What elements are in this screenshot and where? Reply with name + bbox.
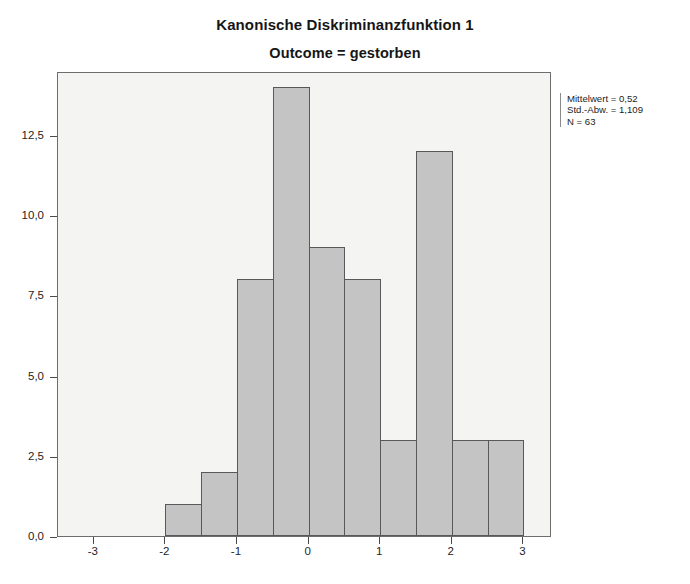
y-axis-tick <box>50 136 57 137</box>
x-axis-tick <box>522 537 523 544</box>
x-axis-tick <box>164 537 165 544</box>
statistics-annotation: Mittelwert = 0,52 Std.-Abw. = 1,109 N = … <box>560 93 643 127</box>
y-axis-tick-label: 5,0 <box>0 371 44 383</box>
histogram-bar <box>309 247 346 536</box>
histogram-bar <box>416 151 453 536</box>
y-axis-tick-label: 0,0 <box>0 531 44 543</box>
x-axis-tick-label: -1 <box>216 546 256 558</box>
histogram-figure: Kanonische Diskriminanzfunktion 1 Outcom… <box>0 0 690 584</box>
x-axis-tick <box>451 537 452 544</box>
stat-std-dev: Std.-Abw. = 1,109 <box>567 104 643 115</box>
x-axis-tick <box>379 537 380 544</box>
y-axis-tick <box>50 296 57 297</box>
histogram-bar <box>344 279 381 536</box>
y-axis-tick-label: 2,5 <box>0 451 44 463</box>
x-axis-tick-label: -2 <box>144 546 184 558</box>
histogram-bar <box>201 472 238 536</box>
y-axis-tick <box>50 216 57 217</box>
histogram-bar <box>273 87 310 536</box>
x-axis-tick-label: 2 <box>431 546 471 558</box>
x-axis-tick-label: -3 <box>73 546 113 558</box>
histogram-bar <box>237 279 274 536</box>
x-axis-tick-label: 0 <box>288 546 328 558</box>
histogram-bar <box>488 440 525 536</box>
y-axis-tick <box>50 457 57 458</box>
histogram-bar <box>452 440 489 536</box>
stat-n: N = 63 <box>567 116 643 127</box>
bars-layer <box>58 73 550 536</box>
histogram-bar <box>380 440 417 536</box>
y-axis-tick <box>50 377 57 378</box>
x-axis-tick-label: 1 <box>359 546 399 558</box>
histogram-bar <box>165 504 202 536</box>
y-axis-tick <box>50 537 57 538</box>
x-axis-tick <box>236 537 237 544</box>
plot-area <box>57 72 551 537</box>
chart-subtitle: Outcome = gestorben <box>0 45 690 61</box>
y-axis-tick-label: 10,0 <box>0 210 44 222</box>
y-axis-tick-label: 7,5 <box>0 290 44 302</box>
stat-mean: Mittelwert = 0,52 <box>567 93 643 104</box>
page-title: Kanonische Diskriminanzfunktion 1 <box>0 16 690 33</box>
x-axis-tick <box>308 537 309 544</box>
x-axis-tick <box>93 537 94 544</box>
y-axis-tick-label: 12,5 <box>0 130 44 142</box>
x-axis-tick-label: 3 <box>502 546 542 558</box>
